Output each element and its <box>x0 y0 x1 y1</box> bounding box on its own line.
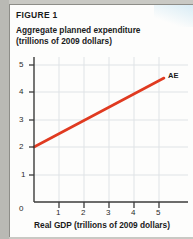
y-axis-ticks <box>29 65 34 175</box>
y-tick-label-2: 2 <box>19 142 23 151</box>
y-tick-label-3: 3 <box>19 115 23 124</box>
x-tick-label-2: 2 <box>81 208 85 217</box>
y-tick-label-1: 1 <box>21 170 25 179</box>
ae-line <box>34 78 164 147</box>
y-tick-label-0: 0 <box>19 204 23 213</box>
grid-vertical <box>59 57 159 202</box>
x-tick-label-5: 5 <box>156 208 160 217</box>
page-margin <box>0 0 9 239</box>
grid-horizontal <box>34 65 188 175</box>
y-tick-label-4: 4 <box>19 87 23 96</box>
chart-svg <box>10 5 193 237</box>
figure-screenshot: FIGURE 1 Aggregate planned expenditure (… <box>0 0 193 239</box>
ae-series-label: AE <box>168 71 178 80</box>
x-tick-label-3: 3 <box>106 208 110 217</box>
plot-area: 5 4 3 2 1 0 1 2 3 4 5 AE <box>10 5 193 237</box>
figure-panel: FIGURE 1 Aggregate planned expenditure (… <box>9 4 193 237</box>
x-axis-title: Real GDP (trillions of 2009 dollars) <box>10 220 193 230</box>
x-tick-label-4: 4 <box>131 208 135 217</box>
x-tick-label-1: 1 <box>56 208 60 217</box>
y-tick-label-5: 5 <box>19 60 23 69</box>
